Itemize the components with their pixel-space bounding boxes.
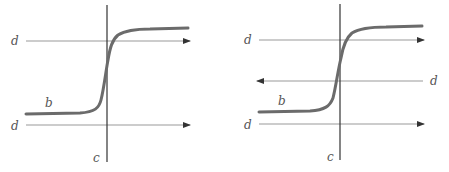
diagram-canvas: d d b c d d d b c bbox=[0, 0, 449, 172]
right-panel: d d d b c bbox=[244, 4, 438, 164]
left-panel: d d b c bbox=[11, 5, 190, 165]
left-top-arrow-label: d bbox=[11, 34, 19, 48]
left-bottom-arrow-label: d bbox=[11, 119, 19, 133]
right-curve-label: b bbox=[278, 94, 286, 108]
right-middle-arrow-label: d bbox=[430, 74, 438, 88]
right-top-arrow-label: d bbox=[244, 33, 252, 47]
right-vertical-line-label: c bbox=[327, 150, 334, 164]
right-bottom-arrow-label: d bbox=[244, 118, 252, 132]
left-vertical-line-label: c bbox=[93, 151, 100, 165]
left-curve-label: b bbox=[45, 96, 53, 110]
